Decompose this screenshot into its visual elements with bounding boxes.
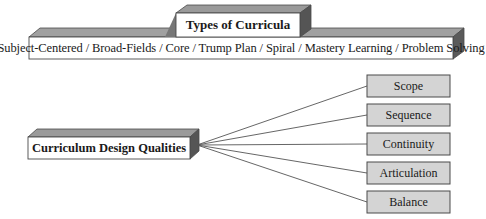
connector-continuity (197, 144, 367, 145)
connector-balance (197, 145, 367, 202)
quality-label-balance: Balance (367, 191, 450, 213)
quality-label-scope: Scope (367, 75, 450, 97)
quality-label-sequence: Sequence (367, 104, 450, 126)
quality-label-articulation: Articulation (367, 162, 450, 184)
connector-sequence (197, 115, 367, 145)
connector-articulation (197, 145, 367, 173)
qualities-hub-label: Curriculum Design Qualities (28, 137, 190, 159)
quality-label-continuity: Continuity (367, 133, 450, 155)
connector-lines (197, 86, 367, 202)
connector-scope (197, 86, 367, 145)
types-list-label: Subject-Centered / Broad-Fields / Core /… (29, 37, 453, 59)
types-title-label: Types of Curricula (176, 13, 300, 37)
